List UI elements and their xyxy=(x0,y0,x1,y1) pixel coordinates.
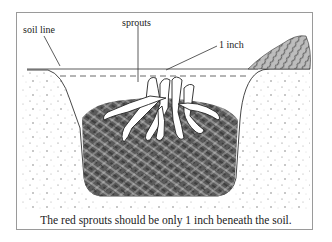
sprouts-label: sprouts xyxy=(122,18,151,28)
figure-caption: The red sprouts should be only 1 inch be… xyxy=(0,214,332,226)
soil-line-label: soil line xyxy=(23,25,55,35)
depth-leader xyxy=(166,46,217,70)
soil-line-leader xyxy=(44,36,60,66)
planting-diagram xyxy=(0,0,332,242)
leader-lines xyxy=(44,26,217,82)
depth-label: 1 inch xyxy=(219,40,244,50)
soil-pile xyxy=(248,36,311,69)
